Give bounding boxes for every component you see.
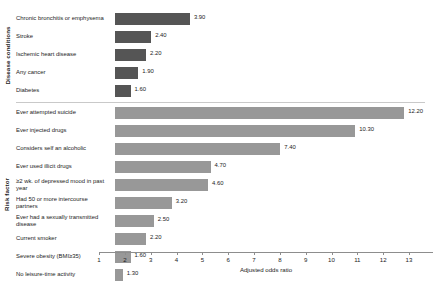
bar-row: Ever attempted suicide12.20 (16, 104, 425, 122)
x-axis-tick (99, 252, 100, 255)
x-axis-tick (280, 252, 281, 255)
bar (115, 197, 172, 209)
bar-value-label: 4.70 (215, 162, 226, 168)
bar-category-label: Ever injected drugs (16, 127, 108, 134)
bar-row: Severe obesity (BMI≥35)1.60 (16, 248, 425, 266)
bar-category-label: Severe obesity (BMI≥35) (16, 253, 108, 260)
bar-category-label: Ever used illicit drugs (16, 163, 108, 170)
bar-row: Ever used illicit drugs4.70 (16, 158, 425, 176)
x-axis-tick (357, 252, 358, 255)
bar-track: 2.20 (115, 46, 425, 64)
bar-value-label: 1.90 (142, 68, 153, 74)
group-axis-label-risk-factor: Risk factor (0, 104, 14, 284)
x-axis-tick-label: 2 (123, 256, 126, 263)
bar-row: Diabetes1.60 (16, 82, 425, 100)
bar-row: Ever injected drugs10.30 (16, 122, 425, 140)
x-axis-tick (332, 252, 333, 255)
bar-value-label: 12.20 (408, 108, 423, 114)
bar-category-label: Considers self an alcoholic (16, 145, 108, 152)
x-axis-tick (383, 252, 384, 255)
bar-value-label: 3.20 (176, 198, 187, 204)
bar-track: 2.50 (115, 212, 425, 230)
x-axis-tick-label: 9 (304, 256, 307, 263)
x-axis-tick-label: 13 (406, 256, 413, 263)
x-axis: Adjusted odds ratio 12345678910111213 (99, 252, 433, 253)
bar-track: 3.90 (115, 10, 425, 28)
bar (115, 125, 355, 137)
bar (115, 179, 208, 191)
bar-track: 7.40 (115, 140, 425, 158)
bar-category-label: Ever attempted suicide (16, 109, 108, 116)
bar-row: Considers self an alcoholic7.40 (16, 140, 425, 158)
bar (115, 67, 138, 79)
x-axis-tick (125, 252, 126, 255)
bar-row: Ever had a sexually transmitted disease2… (16, 212, 425, 230)
x-axis-tick-label: 11 (354, 256, 360, 263)
bar (115, 233, 146, 245)
bar (115, 31, 151, 43)
bar (115, 107, 404, 119)
bar-row: Current smoker2.20 (16, 230, 425, 248)
bar-category-label: Ischemic heart disease (16, 51, 108, 58)
bar-track: 2.20 (115, 230, 425, 248)
bar (115, 85, 131, 97)
bar-row: Ischemic heart disease2.20 (16, 46, 425, 64)
x-axis-tick-label: 6 (226, 256, 229, 263)
bar-category-label: Had 50 or more intercourse partners (16, 196, 108, 211)
bar-value-label: 2.50 (158, 216, 169, 222)
bar-value-label: 2.20 (150, 50, 161, 56)
plot-area: Chronic bronchitis or emphysema3.90Strok… (16, 10, 425, 262)
bar-track: 12.20 (115, 104, 425, 122)
x-axis-tick-label: 8 (278, 256, 281, 263)
x-axis-tick (306, 252, 307, 255)
x-axis-tick (254, 252, 255, 255)
group-axis-label-disease-conditions: Disease conditions (0, 10, 14, 100)
x-axis-tick-label: 5 (201, 256, 204, 263)
bar-row: Any cancer1.90 (16, 64, 425, 82)
bar (115, 215, 154, 227)
bar-value-label: 10.30 (359, 126, 374, 132)
group-axis-label-disease-conditions-text: Disease conditions (4, 26, 11, 84)
bar (115, 161, 211, 173)
bar-category-label: Any cancer (16, 69, 108, 76)
bar-category-label: Ever had a sexually transmitted disease (16, 214, 108, 229)
x-axis-tick-label: 1 (97, 256, 100, 263)
bar-row: Had 50 or more intercourse partners3.20 (16, 194, 425, 212)
adjusted-odds-ratio-bar-chart: Disease conditions Risk factor Chronic b… (0, 0, 433, 299)
x-axis-tick (177, 252, 178, 255)
x-axis-tick-label: 4 (175, 256, 178, 263)
bar (115, 49, 146, 61)
bar-value-label: 4.60 (212, 180, 223, 186)
x-axis-tick (202, 252, 203, 255)
bar-track: 3.20 (115, 194, 425, 212)
bar-track: 4.70 (115, 158, 425, 176)
bar-category-label: Chronic bronchitis or emphysema (16, 15, 108, 22)
bar-value-label: 1.60 (135, 86, 146, 92)
x-axis-tick (151, 252, 152, 255)
bar-track: 1.60 (115, 82, 425, 100)
group-axis-label-risk-factor-text: Risk factor (4, 177, 11, 210)
bar-row: Chronic bronchitis or emphysema3.90 (16, 10, 425, 28)
x-axis-tick (409, 252, 410, 255)
x-axis-tick-label: 10 (328, 256, 335, 263)
bar-value-label: 7.40 (284, 144, 295, 150)
bar-category-label: Current smoker (16, 235, 108, 242)
bar-row: Stroke2.40 (16, 28, 425, 46)
bar-value-label: 2.40 (155, 32, 166, 38)
bar-track: 10.30 (115, 122, 425, 140)
bar (115, 143, 280, 155)
bar-category-label: Stroke (16, 33, 108, 40)
x-axis-title: Adjusted odds ratio (99, 266, 433, 273)
x-axis-tick-label: 7 (252, 256, 255, 263)
x-axis-tick-label: 3 (149, 256, 152, 263)
bar-category-label: No leisure-time activity (16, 271, 108, 278)
bar-category-label: ≥2 wk. of depressed mood in past year (16, 178, 108, 193)
x-axis-tick-label: 12 (380, 256, 387, 263)
bar-category-label: Diabetes (16, 87, 108, 94)
x-axis-tick (228, 252, 229, 255)
bar-row: ≥2 wk. of depressed mood in past year4.6… (16, 176, 425, 194)
bar-value-label: 3.90 (194, 14, 205, 20)
bar-value-label: 2.20 (150, 234, 161, 240)
bar (115, 13, 190, 25)
bar-track: 1.90 (115, 64, 425, 82)
